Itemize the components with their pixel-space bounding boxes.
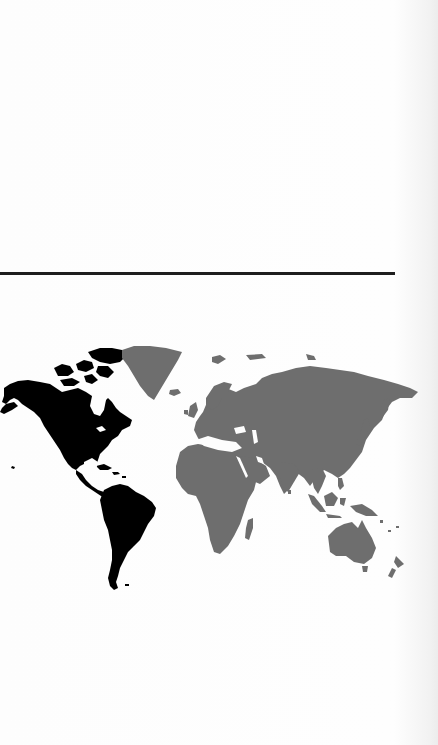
- arctic-islands-shape: [54, 348, 126, 386]
- tasmania-shape: [362, 566, 368, 572]
- caribbean-islands-shape: [96, 464, 126, 478]
- new-guinea-shape: [350, 504, 378, 516]
- sri-lanka-shape: [288, 490, 291, 494]
- alaska-peninsula-shape: [0, 402, 18, 414]
- australia-shape: [328, 520, 376, 564]
- document-page: [0, 0, 438, 745]
- sulawesi-shape: [340, 498, 346, 506]
- borneo-shape: [324, 492, 338, 506]
- svalbard-shape: [212, 355, 226, 364]
- americas-highlighted: [0, 348, 156, 590]
- pacific-islands-shape: [380, 520, 399, 532]
- sumatra-shape: [308, 494, 326, 512]
- south-america-shape: [100, 484, 156, 590]
- north-america-shape: [2, 380, 132, 470]
- horizontal-divider: [0, 272, 395, 275]
- indochina-shape: [312, 468, 326, 494]
- java-shape: [326, 514, 342, 518]
- rest-of-world: [122, 346, 418, 578]
- madagascar-shape: [245, 518, 253, 540]
- new-zealand-shape: [388, 556, 404, 578]
- british-isles-shape: [184, 402, 198, 418]
- hawaii-shape: [11, 466, 15, 469]
- iceland-shape: [169, 389, 181, 396]
- arctic-islands-east-shape: [246, 354, 316, 360]
- falkland-islands-shape: [125, 584, 129, 586]
- philippines-shape: [338, 478, 344, 490]
- world-map-figure: [0, 340, 438, 600]
